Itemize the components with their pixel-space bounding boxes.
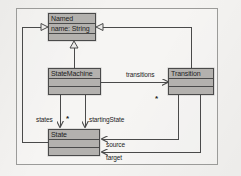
assoc-label-transitions: transitions xyxy=(126,71,155,79)
class-box-statemachine[interactable]: StateMachine xyxy=(48,68,101,95)
class-attributes-statemachine xyxy=(49,79,100,87)
class-box-transition[interactable]: Transition xyxy=(168,68,214,95)
class-name-transition: Transition xyxy=(169,69,213,79)
assoc-mult-states: * xyxy=(66,115,69,123)
class-operations-named xyxy=(49,34,95,40)
class-operations-transition xyxy=(169,87,213,94)
class-name-named: Named xyxy=(49,14,95,24)
class-attributes-transition xyxy=(169,79,213,87)
assoc-label-source: source xyxy=(106,141,125,149)
class-name-statemachine: StateMachine xyxy=(49,69,100,79)
assoc-mult-transitions: * xyxy=(155,95,158,103)
class-box-named[interactable]: Named name: String xyxy=(48,13,96,41)
class-attributes-named: name: String xyxy=(49,24,95,34)
class-box-state[interactable]: State xyxy=(48,129,100,156)
assoc-label-startingstate: startingState xyxy=(89,116,124,124)
assoc-label-target: target xyxy=(106,154,122,162)
class-name-state: State xyxy=(49,130,99,140)
class-operations-state xyxy=(49,148,99,155)
gen-line-transition-named xyxy=(103,27,191,68)
generalization-arrow-left-icon xyxy=(96,24,103,31)
class-operations-statemachine xyxy=(49,87,100,94)
class-attributes-state xyxy=(49,140,99,148)
generalization-arrow-right-icon xyxy=(41,24,48,31)
uml-diagram-canvas: Named name: String StateMachine Transiti… xyxy=(0,0,241,176)
assoc-label-states: states xyxy=(36,116,53,124)
generalization-arrow-up-icon xyxy=(70,41,78,48)
gen-line-state-named xyxy=(22,27,48,142)
